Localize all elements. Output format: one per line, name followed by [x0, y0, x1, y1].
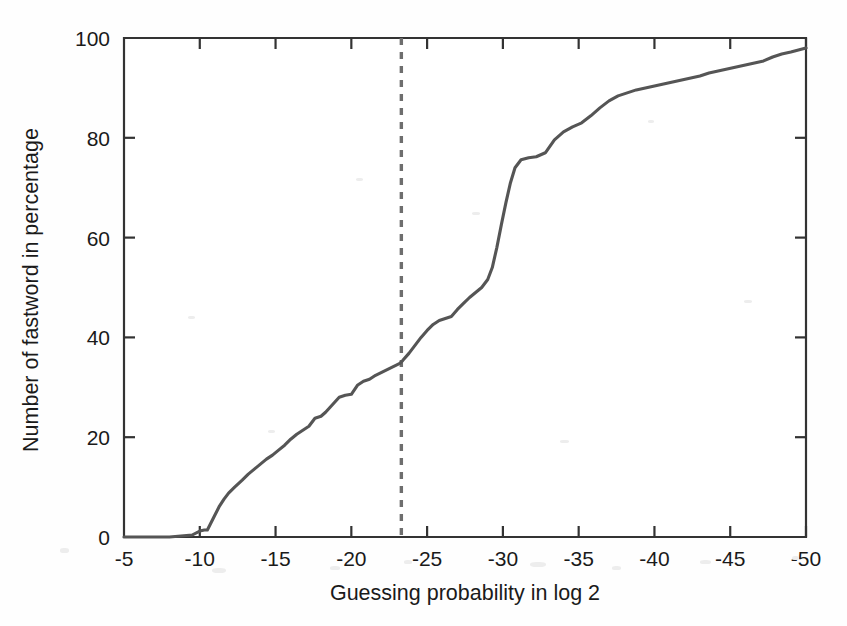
y-tick-label: 60	[87, 227, 110, 250]
x-tick-label: -40	[639, 547, 669, 570]
x-tick-label: -20	[336, 547, 366, 570]
scan-artifact	[268, 430, 275, 433]
plot-background	[124, 38, 806, 537]
scan-artifact	[356, 178, 363, 181]
x-axis-tick-labels: -5-10-15-20-25-30-35-40-45-50	[115, 547, 822, 570]
x-tick-label: -5	[115, 547, 134, 570]
scan-artifact	[648, 120, 654, 123]
scan-artifact	[560, 440, 569, 443]
y-axis-title: Number of fastword in percentage	[19, 128, 43, 452]
scan-artifact	[744, 300, 752, 303]
scan-artifact	[700, 560, 711, 564]
scan-artifact	[404, 560, 412, 564]
y-tick-label: 100	[75, 27, 110, 50]
x-tick-label: -10	[185, 547, 215, 570]
scan-artifact	[612, 566, 621, 570]
x-axis-title: Guessing probability in log 2	[330, 581, 600, 605]
scan-artifact	[188, 316, 195, 319]
y-tick-label: 0	[98, 526, 110, 549]
x-tick-label: -30	[488, 547, 518, 570]
scan-artifact	[530, 562, 546, 567]
scan-artifact	[330, 566, 340, 570]
scan-artifact	[792, 556, 799, 560]
y-tick-label: 80	[87, 127, 110, 150]
x-tick-label: -35	[563, 547, 593, 570]
cdf-line-chart: -5-10-15-20-25-30-35-40-45-50 0204060801…	[0, 0, 847, 626]
y-axis-tick-labels: 020406080100	[75, 27, 110, 549]
scan-artifact	[60, 548, 69, 553]
y-tick-label: 20	[87, 426, 110, 449]
x-tick-label: -15	[260, 547, 290, 570]
x-tick-label: -25	[412, 547, 442, 570]
scan-artifact	[212, 568, 226, 573]
y-tick-label: 40	[87, 326, 110, 349]
x-tick-label: -45	[715, 547, 745, 570]
chart-figure: -5-10-15-20-25-30-35-40-45-50 0204060801…	[0, 0, 847, 626]
scan-artifact	[472, 212, 480, 215]
